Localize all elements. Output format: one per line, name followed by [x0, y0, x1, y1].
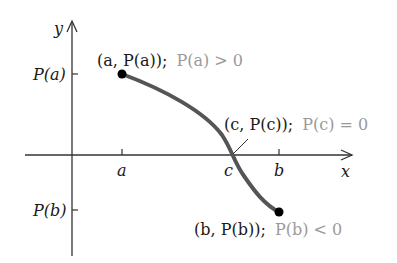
x-tick-a: a — [117, 149, 127, 180]
y-axis: y — [53, 19, 77, 256]
point-b — [275, 208, 284, 217]
point-b-label: (b, P(b)); P(b) < 0 — [194, 220, 342, 239]
y-tick-label-pa: P(a) — [32, 65, 66, 84]
point-a-coord: (a, P(a)); — [97, 51, 167, 70]
x-tick-label-a: a — [117, 161, 127, 180]
y-tick-label-pb: P(b) — [32, 201, 67, 220]
point-c-condition: P(c) = 0 — [302, 115, 368, 134]
point-a — [118, 70, 127, 79]
polynomial-curve — [122, 74, 279, 212]
point-a-label: (a, P(a)); P(a) > 0 — [97, 51, 243, 70]
x-axis: x — [25, 150, 352, 181]
x-tick-label-c: c — [224, 161, 233, 180]
x-tick-label-b: b — [274, 161, 284, 180]
ivt-diagram: y x a c b P(a) P(b) (a, P(a)); P(a) > 0 … — [0, 0, 397, 263]
x-tick-b: b — [274, 149, 284, 180]
point-b-coord: (b, P(b)); — [194, 220, 266, 239]
x-axis-label: x — [341, 162, 350, 181]
c-leader-line — [233, 139, 248, 154]
point-c-label: (c, P(c)); P(c) = 0 — [224, 115, 368, 134]
y-tick-pb: P(b) — [32, 201, 78, 220]
point-a-condition: P(a) > 0 — [176, 51, 243, 70]
point-b-condition: P(b) < 0 — [275, 220, 342, 239]
y-axis-label: y — [53, 19, 64, 38]
point-c-coord: (c, P(c)); — [224, 115, 293, 134]
y-tick-pa: P(a) — [32, 65, 78, 84]
x-tick-c: c — [224, 161, 233, 180]
